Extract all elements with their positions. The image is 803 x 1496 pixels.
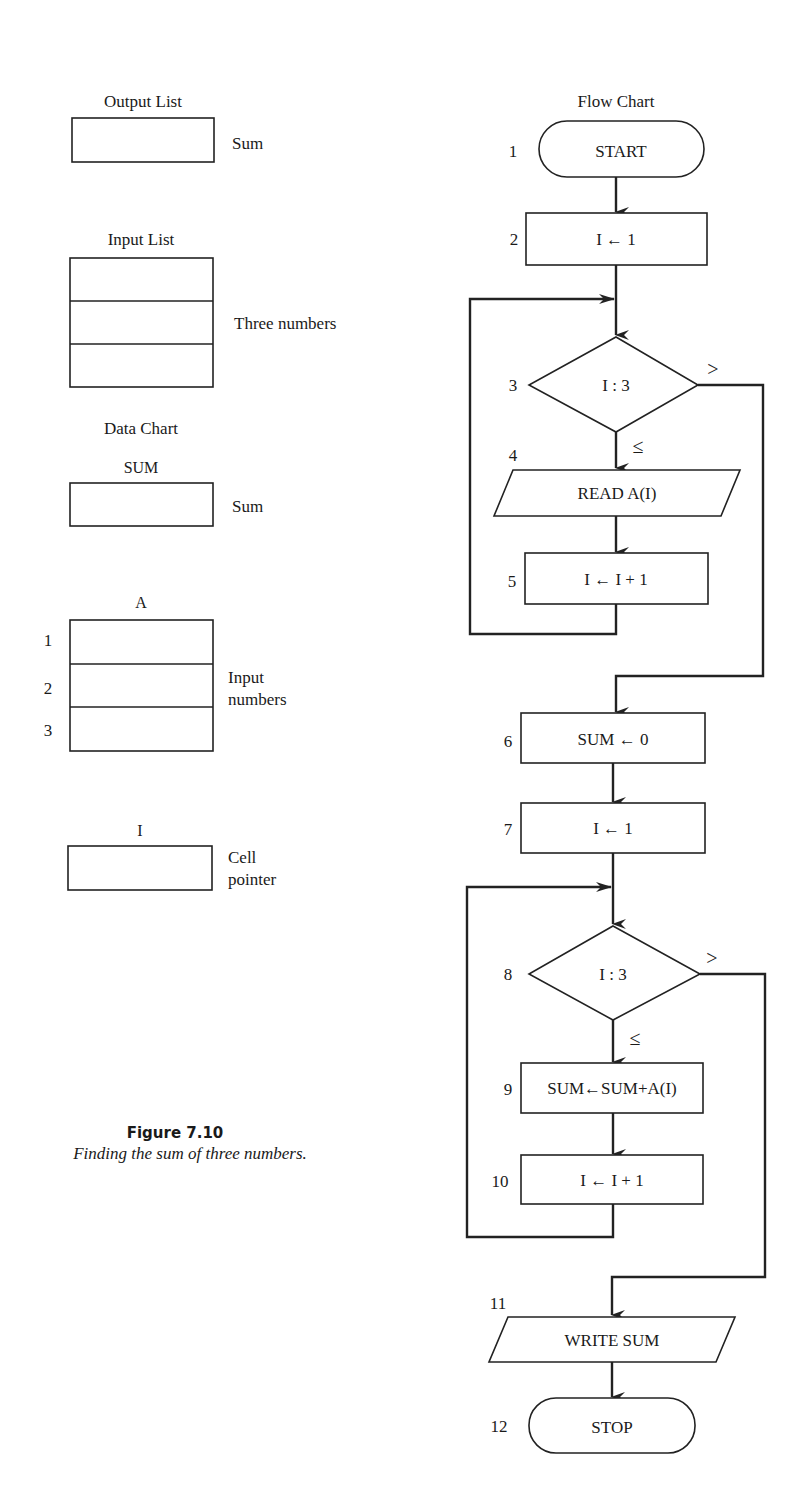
pointer-i-label: I xyxy=(137,822,142,839)
step-number: 12 xyxy=(491,1417,508,1436)
step-text: I ← 1 xyxy=(596,230,636,249)
step-text: I : 3 xyxy=(599,965,626,984)
step-number: 10 xyxy=(492,1172,509,1191)
step-number: 5 xyxy=(508,572,517,591)
array-a-cells xyxy=(70,620,213,751)
output-list: Output List Sum xyxy=(72,92,263,162)
figure-number: Figure 7.10 xyxy=(127,1124,224,1142)
sum-cell-label: SUM xyxy=(124,459,159,476)
flow-step-6-process: 6 SUM ← 0 xyxy=(504,713,705,763)
figure-caption: Figure 7.10 Finding the sum of three num… xyxy=(72,1124,307,1163)
step-number: 2 xyxy=(510,230,519,249)
step-text: I : 3 xyxy=(602,376,629,395)
array-a-index: 2 xyxy=(44,679,53,698)
step-text: SUM←SUM+A(I) xyxy=(547,1079,677,1098)
step-number: 7 xyxy=(504,820,513,839)
flow-step-10-process: 10 I ← I + 1 xyxy=(492,1155,704,1204)
step-number: 11 xyxy=(490,1294,506,1313)
data-chart-title: Data Chart xyxy=(104,419,178,438)
step-text: WRITE SUM xyxy=(565,1331,660,1350)
sum-cell xyxy=(70,483,213,526)
flow-step-8-decision: 8 I : 3 > ≤ xyxy=(504,926,718,1049)
input-list: Input List Three numbers xyxy=(70,230,336,387)
step-text: STOP xyxy=(591,1418,632,1437)
input-list-description: Three numbers xyxy=(234,314,336,333)
flow-step-12-stop: 12 STOP xyxy=(491,1398,696,1453)
input-list-cells xyxy=(70,258,213,387)
output-list-title: Output List xyxy=(104,92,182,111)
step-text: START xyxy=(595,142,647,161)
pointer-i-cell xyxy=(68,846,212,890)
pointer-i-description-line1: Cell xyxy=(228,848,257,867)
flow-step-3-decision: 3 I : 3 > ≤ xyxy=(509,337,719,457)
figure-caption-text: Finding the sum of three numbers. xyxy=(72,1144,307,1163)
step-number: 8 xyxy=(504,965,513,984)
flow-step-5-process: 5 I ← I + 1 xyxy=(508,553,708,604)
step-number: 9 xyxy=(504,1080,513,1099)
figure-canvas: Output List Sum Input List Three numbers… xyxy=(0,0,803,1496)
step-number: 4 xyxy=(509,446,518,465)
step-text: READ A(I) xyxy=(578,484,657,503)
step-number: 3 xyxy=(509,376,518,395)
step-text: I ← I + 1 xyxy=(580,1171,643,1190)
flow-step-2-process: 2 I ← 1 xyxy=(510,213,707,265)
input-list-title: Input List xyxy=(108,230,175,249)
array-a-description-line1: Input xyxy=(228,668,264,687)
array-a-index: 3 xyxy=(44,721,53,740)
step-number: 6 xyxy=(504,732,513,751)
array-a-label: A xyxy=(135,594,147,611)
data-chart: Data Chart SUM Sum A 1 2 3 Input numbers… xyxy=(44,419,287,890)
step-text: I ← 1 xyxy=(593,819,633,838)
flow-step-9-process: 9 SUM←SUM+A(I) xyxy=(504,1063,703,1113)
step-text: SUM ← 0 xyxy=(578,730,649,749)
step-text: I ← I + 1 xyxy=(584,570,647,589)
branch-label-greater: > xyxy=(706,947,717,969)
array-a-description-line2: numbers xyxy=(228,690,287,709)
output-list-description: Sum xyxy=(232,134,263,153)
flow-step-7-process: 7 I ← 1 xyxy=(504,803,705,853)
branch-label-less-equal: ≤ xyxy=(633,435,644,457)
sum-cell-description: Sum xyxy=(232,497,263,516)
output-list-cell xyxy=(72,118,214,162)
step-number: 1 xyxy=(509,142,518,161)
array-a-index: 1 xyxy=(44,631,53,650)
flow-chart-title: Flow Chart xyxy=(578,92,655,111)
pointer-i-description-line2: pointer xyxy=(228,870,276,889)
branch-label-greater: > xyxy=(707,358,718,380)
branch-label-less-equal: ≤ xyxy=(630,1027,641,1049)
flow-step-1-start: 1 START xyxy=(509,121,704,177)
